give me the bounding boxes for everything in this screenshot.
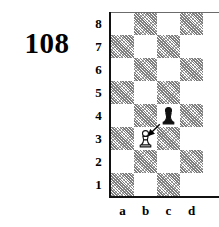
file-label-b: b	[134, 201, 157, 221]
black-pawn-icon-c4[interactable]	[157, 104, 180, 127]
rank-label-4: 4	[90, 104, 107, 127]
white-pawn-icon-b3[interactable]	[134, 127, 157, 150]
problem-number: 108	[8, 26, 86, 60]
rank-label-column: 87654321	[90, 12, 107, 196]
rank-label-5: 5	[90, 81, 107, 104]
chess-board	[109, 12, 219, 198]
rank-label-8: 8	[90, 12, 107, 35]
file-label-c: c	[157, 201, 180, 221]
file-label-row: abcd	[111, 201, 211, 221]
rank-label-3: 3	[90, 127, 107, 150]
chess-problem-diagram: 108 87654321 abcd	[0, 0, 219, 227]
rank-label-7: 7	[90, 35, 107, 58]
rank-label-1: 1	[90, 173, 107, 196]
file-label-a: a	[111, 201, 134, 221]
rank-label-6: 6	[90, 58, 107, 81]
rank-label-2: 2	[90, 150, 107, 173]
file-label-d: d	[180, 201, 203, 221]
